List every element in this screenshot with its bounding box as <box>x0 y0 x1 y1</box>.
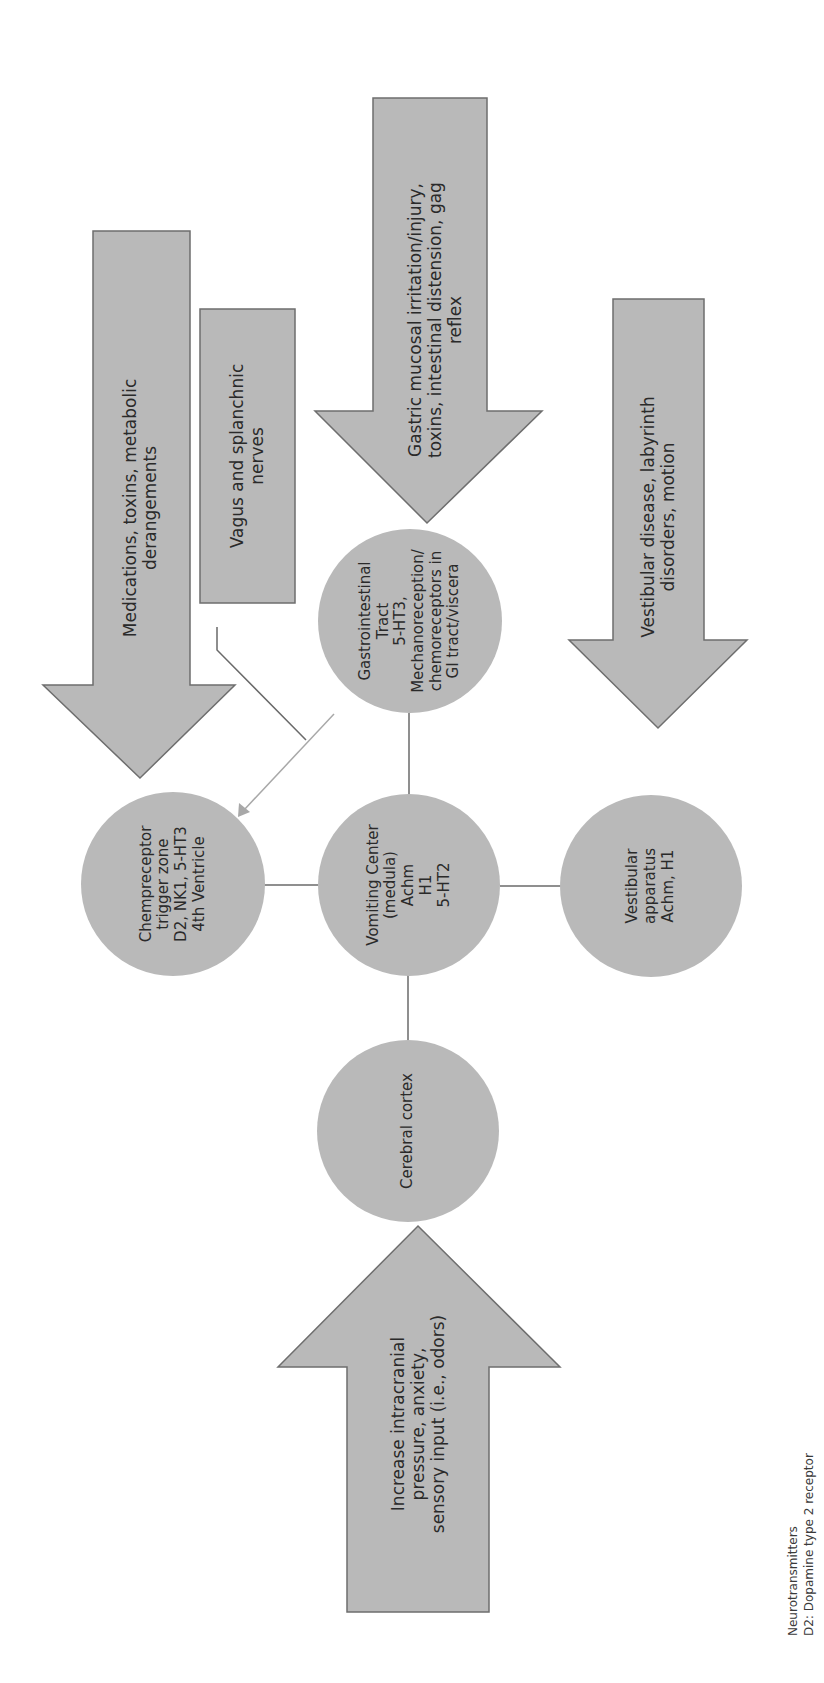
label-gastric: Gastric mucosal irritation/injury, toxin… <box>380 140 490 500</box>
connector-vagus-nerves <box>217 627 306 740</box>
connector-gi-to-ctz <box>244 714 334 810</box>
legend-title: Neurotransmitters <box>786 1453 802 1636</box>
label-gastrointestinal-tract: Gastrointestinal Tract 5-HT3, Mechanorec… <box>335 536 485 706</box>
legend: Neurotransmitters D2: Dopamine type 2 re… <box>786 1453 817 1636</box>
label-intracranial: Increase intracranial pressure, anxiety,… <box>372 1289 464 1559</box>
label-cerebral-cortex: Cerebral cortex <box>388 1046 428 1216</box>
label-vestibular-disease: Vestibular disease, labyrinth disorders,… <box>615 377 701 657</box>
label-vestibular-apparatus: Vestibular apparatus Achm, H1 <box>611 811 691 961</box>
label-vagus-splanchnic: Vagus and splanchnic nerves <box>201 311 293 601</box>
legend-item-d2: D2: Dopamine type 2 receptor <box>802 1453 818 1636</box>
label-vomiting-center: Vomiting Center (medula) Achm H1 5-HT2 <box>344 805 474 965</box>
label-chemoreceptor-trigger-zone: Chempreceptor trigger zone D2, NK1, 5-HT… <box>123 799 223 969</box>
label-medications: Medications, toxins, metabolic derangeme… <box>94 328 186 688</box>
